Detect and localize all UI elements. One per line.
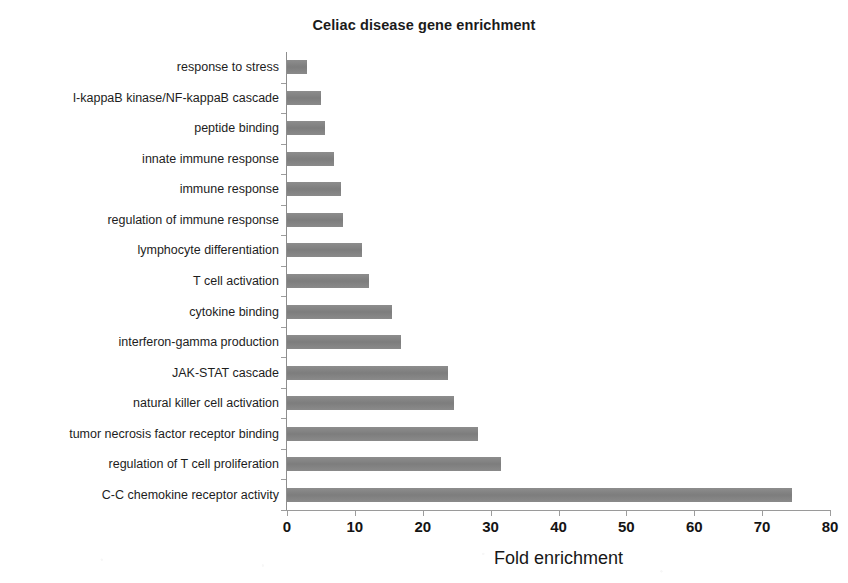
y-tick [281,205,286,206]
bar-row [287,479,830,510]
bar-row [287,418,830,449]
y-tick [281,296,286,297]
x-tick-label: 50 [596,518,656,535]
bar [287,243,362,257]
bar [287,366,448,380]
y-tick [281,388,286,389]
y-tick [281,174,286,175]
bar [287,152,334,166]
bar-row [287,449,830,480]
x-tick-label: 80 [800,518,848,535]
y-tick [281,327,286,328]
x-tick [694,511,695,516]
bar [287,335,401,349]
x-tick [287,511,288,516]
category-label: I-kappaB kinase/NF-kappaB cascade [73,91,279,105]
bar [287,396,454,410]
x-tick [762,511,763,516]
category-label: interferon-gamma production [119,335,280,349]
x-tick-label: 20 [393,518,453,535]
category-label: cytokine binding [189,305,279,319]
x-tick-label: 10 [325,518,385,535]
y-tick [281,479,286,480]
category-label: regulation of T cell proliferation [109,457,279,471]
x-tick [423,511,424,516]
y-tick [281,83,286,84]
category-label: natural killer cell activation [133,396,279,410]
x-tick-label: 60 [664,518,724,535]
x-tick [355,511,356,516]
bar-chart-figure: Celiac disease gene enrichment response … [0,0,848,583]
category-label: immune response [180,182,279,196]
y-tick [281,357,286,358]
plot-area [287,52,830,510]
bar [287,488,792,502]
y-tick [281,418,286,419]
category-label: T cell activation [193,274,279,288]
bar [287,91,321,105]
bar [287,121,325,135]
y-tick [281,510,286,511]
bar-row [287,144,830,175]
bar-row [287,205,830,236]
chart-title: Celiac disease gene enrichment [0,17,848,33]
bar-row [287,52,830,83]
bar [287,213,343,227]
x-tick [491,511,492,516]
bar [287,60,307,74]
y-tick [281,235,286,236]
x-tick-label: 0 [257,518,317,535]
bar-row [287,266,830,297]
bar [287,182,341,196]
bar-row [287,235,830,266]
bar-row [287,357,830,388]
category-label: regulation of immune response [107,213,279,227]
x-tick [559,511,560,516]
bar-row [287,296,830,327]
bar [287,427,478,441]
bar [287,457,501,471]
bar-row [287,388,830,419]
x-tick [626,511,627,516]
category-label: JAK-STAT cascade [172,366,279,380]
category-label: peptide binding [194,121,279,135]
x-axis-title: Fold enrichment [287,548,830,569]
bar-row [287,113,830,144]
x-tick-label: 40 [529,518,589,535]
bar [287,305,392,319]
y-tick [281,266,286,267]
bar-row [287,174,830,205]
bar-row [287,83,830,114]
category-label: response to stress [177,60,279,74]
y-tick [281,113,286,114]
category-label: C-C chemokine receptor activity [102,488,279,502]
y-tick [281,144,286,145]
category-label: innate immune response [142,152,279,166]
x-tick-label: 70 [732,518,792,535]
y-tick [281,449,286,450]
bar-row [287,327,830,358]
category-label: tumor necrosis factor receptor binding [69,427,279,441]
x-tick [830,511,831,516]
bar [287,274,369,288]
category-label: lymphocyte differentiation [137,243,279,257]
x-tick-label: 30 [461,518,521,535]
